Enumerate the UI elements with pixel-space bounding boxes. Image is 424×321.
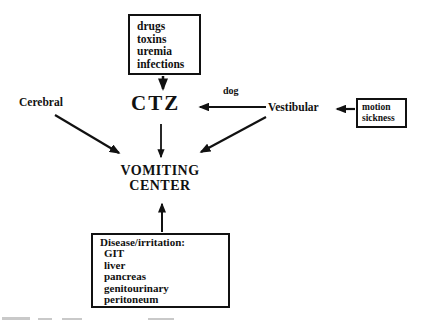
disease-box-item: pancreas — [100, 271, 226, 282]
causes-box-line: toxins — [137, 33, 197, 46]
cropped-caption-fragment — [38, 318, 52, 320]
causes-box-line: infections — [137, 58, 197, 71]
disease-box-item: peritoneum — [100, 294, 226, 305]
motion-sickness-box: motion sickness — [356, 98, 407, 128]
dog-arrow-label: dog — [223, 85, 239, 96]
cropped-caption-fragment — [148, 318, 174, 320]
vomiting-center-label: VOMITING CENTER — [104, 163, 216, 193]
cerebral-label: Cerebral — [19, 96, 63, 108]
ctz-label: CTZ — [131, 91, 180, 116]
motion-sickness-line: motion — [362, 102, 403, 113]
arrow-vestibular-to-vomiting-center — [201, 117, 266, 152]
causes-box: drugs toxins uremia infections — [128, 14, 201, 75]
arrow-cerebral-to-vomiting-center — [55, 115, 119, 153]
vomiting-center-line2: CENTER — [104, 178, 216, 193]
causes-box-line: uremia — [137, 45, 197, 58]
disease-irritation-box: Disease/irritation: GIT liver pancreas g… — [91, 233, 230, 308]
causes-box-line: drugs — [137, 20, 197, 33]
vomiting-center-line1: VOMITING — [104, 163, 216, 178]
cropped-caption-fragment — [62, 318, 82, 320]
cropped-caption-fragment — [2, 317, 30, 320]
vomiting-pathway-diagram: drugs toxins uremia infections CTZ Cereb… — [0, 0, 424, 321]
motion-sickness-line: sickness — [362, 113, 403, 124]
vestibular-label: Vestibular — [268, 101, 319, 113]
